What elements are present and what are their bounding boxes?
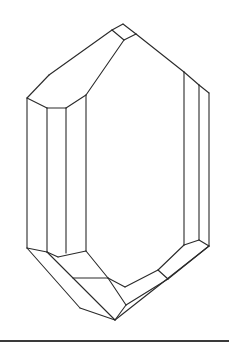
crystal-edge [199,240,209,246]
crystal-edge [47,252,115,320]
crystal-edge [136,34,184,72]
crystal-edge [158,245,184,270]
crystal-edge [108,278,126,305]
crystal-edge [112,30,124,40]
crystal-edge [112,24,123,30]
crystal-drawing [0,0,229,346]
crystal-edge [124,34,136,40]
crystal-edge [27,98,47,108]
crystal-edge [27,248,80,308]
crystal-edge [199,85,209,93]
baseline-rule [0,340,229,342]
crystal-edge [158,270,168,279]
crystal-edge [115,246,209,320]
crystal-edge [123,24,136,34]
crystal-edge [27,75,49,98]
crystal-edge [86,40,124,95]
crystal-edge [184,72,199,85]
crystal-edge [184,240,199,245]
crystal-edge [86,251,108,278]
crystal-edge [125,270,158,287]
crystal-edge [49,30,112,75]
crystal-edge [58,251,86,257]
crystal-edge [47,252,58,257]
crystal-edge [66,95,86,108]
